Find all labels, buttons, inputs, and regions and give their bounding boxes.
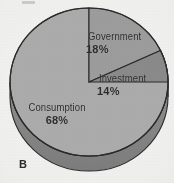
pie-label-government: Government 18% xyxy=(86,31,170,56)
pie-label-investment: Investment 14% xyxy=(97,73,173,98)
figure-panel-letter: B xyxy=(19,158,27,170)
pie-label-government-name: Government xyxy=(88,31,168,42)
pie-label-government-value: 18% xyxy=(86,43,170,55)
pie-label-investment-name: Investment xyxy=(99,73,171,84)
pie-label-consumption-name: Consumption xyxy=(19,102,95,113)
pie-label-consumption-value: 68% xyxy=(17,114,97,126)
pie-label-investment-value: 14% xyxy=(97,85,173,97)
pie-chart-figure: Government 18% Investment 14% Consumptio… xyxy=(0,0,174,183)
pie-label-consumption: Consumption 68% xyxy=(17,102,97,127)
